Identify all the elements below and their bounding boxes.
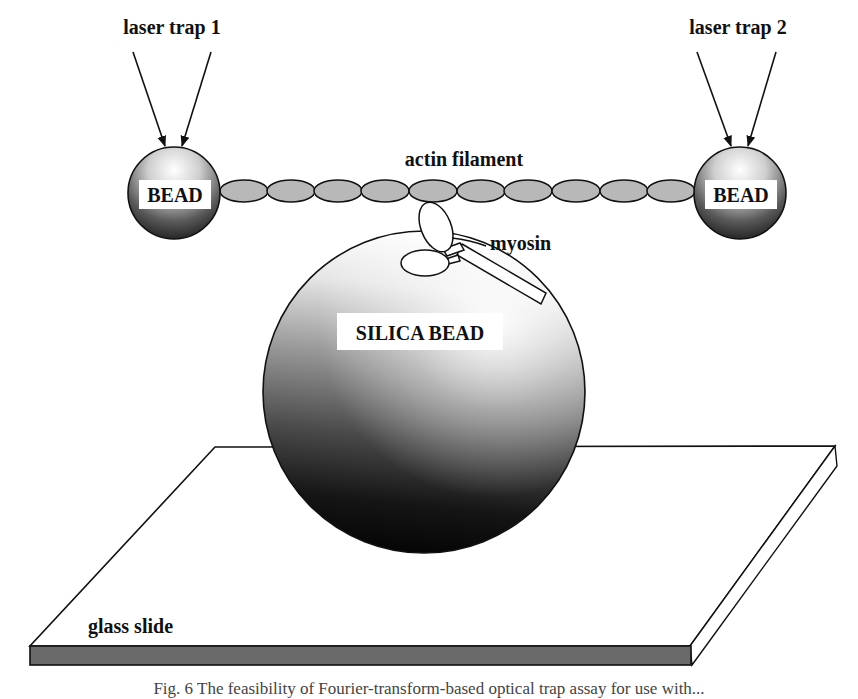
actin-subunit (267, 180, 315, 202)
actin-filament (220, 180, 695, 202)
laser-trap-1-label: laser trap 1 (123, 16, 220, 39)
laser-trap-1-arrows (133, 52, 211, 146)
glass-slide-front-edge (30, 646, 691, 665)
bead-left: BEAD (128, 147, 220, 239)
myosin-label: myosin (490, 232, 551, 255)
bead-left-label: BEAD (147, 184, 203, 206)
figure-caption: Fig. 6 The feasibility of Fourier-transf… (0, 679, 858, 699)
bead-right-label: BEAD (713, 184, 769, 206)
actin-subunit (314, 180, 362, 202)
silica-bead-label: SILICA BEAD (356, 322, 484, 344)
actin-subunit (220, 180, 268, 202)
bead-right: BEAD (694, 147, 786, 239)
actin-subunit (457, 180, 505, 202)
laser-trap-2-arrows (697, 52, 776, 146)
myosin-head-lower (401, 250, 449, 276)
silica-bead: SILICA BEAD (263, 231, 585, 553)
actin-subunit (409, 180, 457, 202)
actin-subunit (552, 180, 600, 202)
actin-subunit (647, 180, 695, 202)
laser-trap-2-label: laser trap 2 (689, 16, 786, 39)
actin-subunit (361, 180, 409, 202)
actin-subunit (600, 180, 648, 202)
glass-slide-label: glass slide (88, 615, 173, 638)
actin-subunit (504, 180, 552, 202)
actin-filament-label: actin filament (405, 148, 524, 170)
